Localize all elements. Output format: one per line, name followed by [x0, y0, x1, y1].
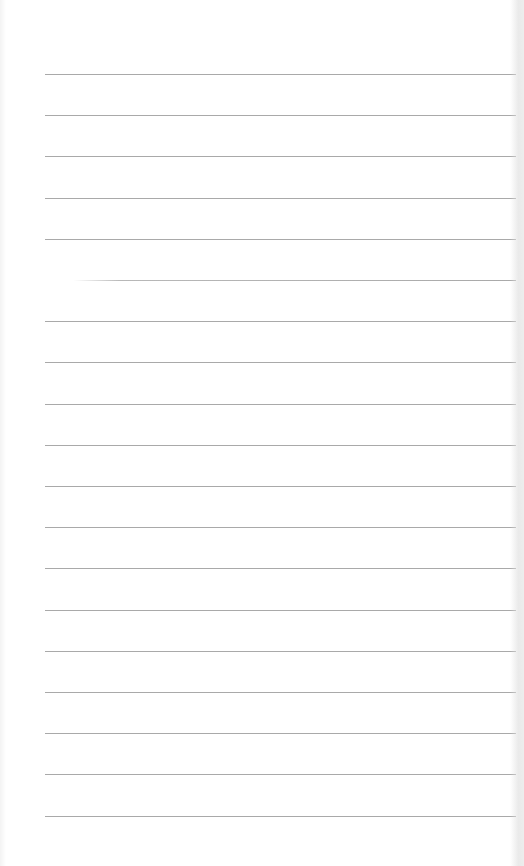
ruled-line — [45, 651, 516, 652]
ruled-line — [45, 362, 516, 363]
ruled-line — [45, 445, 516, 446]
ruled-line — [45, 280, 516, 281]
ruled-line — [45, 74, 516, 75]
ruled-line — [45, 115, 516, 116]
ruled-line — [45, 198, 516, 199]
ruled-line — [45, 321, 516, 322]
ruled-line — [45, 610, 516, 611]
ruled-line — [45, 774, 516, 775]
ruled-line — [45, 404, 516, 405]
ruled-line — [45, 568, 516, 569]
ruled-line — [45, 239, 516, 240]
notepad-page — [0, 0, 524, 866]
ruled-line — [45, 486, 516, 487]
page-left-shadow — [0, 0, 6, 866]
ruled-line — [45, 733, 516, 734]
ruled-line — [45, 692, 516, 693]
ruled-line — [45, 527, 516, 528]
page-edge-shadow — [510, 0, 524, 866]
ruled-line — [45, 156, 516, 157]
ruled-line — [45, 816, 516, 817]
